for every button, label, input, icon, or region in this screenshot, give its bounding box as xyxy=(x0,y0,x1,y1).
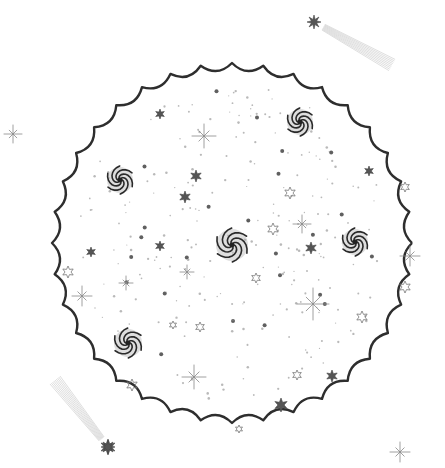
outline-stars xyxy=(63,182,410,433)
space-illustration xyxy=(0,0,445,468)
spiral-galaxies xyxy=(107,108,368,358)
filled-stars xyxy=(87,109,374,455)
